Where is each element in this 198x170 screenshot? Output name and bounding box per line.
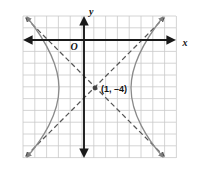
origin-label: O — [70, 41, 77, 52]
y-axis-label: y — [88, 6, 94, 17]
center-point-label: (1, –4) — [101, 84, 127, 94]
x-axis-label: x — [182, 37, 188, 48]
hyperbola-figure: O x y (1, –4) — [0, 0, 198, 170]
center-point-marker — [93, 86, 98, 91]
figure-background — [0, 0, 198, 170]
graph-canvas: O x y (1, –4) — [0, 0, 198, 170]
